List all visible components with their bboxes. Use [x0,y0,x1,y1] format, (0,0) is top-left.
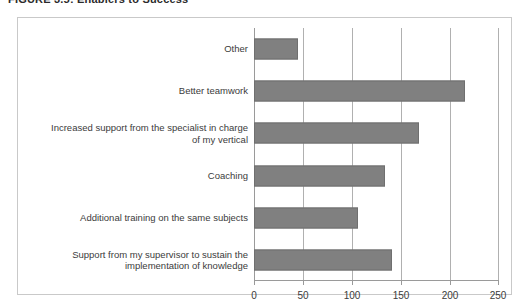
x-tick-label: 100 [344,290,361,301]
x-tick-label: 250 [490,290,507,301]
bar-additional-training[interactable] [254,207,358,228]
table-row: Better teamwork [254,70,499,112]
x-tick [401,281,402,285]
x-axis-line [254,280,499,281]
category-label: Coaching [16,170,248,182]
bar-other[interactable] [254,39,298,60]
x-tick [498,281,499,285]
category-label: Better teamwork [16,85,248,97]
bar-coaching[interactable] [254,165,385,186]
category-label: Other [16,43,248,55]
x-tick [303,281,304,285]
bar-increased-support[interactable] [254,123,419,144]
table-row: Additional training on the same subjects [254,197,499,239]
bar-supervisor-support[interactable] [254,249,392,270]
x-tick [450,281,451,285]
category-label: Support from my supervisor to sustain th… [16,248,248,271]
x-tick-label: 150 [393,290,410,301]
table-row: Coaching [254,155,499,197]
table-row: Increased support from the specialist in… [254,112,499,154]
plot-area: Other Better teamwork Increased support … [254,28,499,281]
table-row: Support from my supervisor to sustain th… [254,239,499,281]
bar-better-teamwork[interactable] [254,81,465,102]
x-tick-label: 0 [251,290,257,301]
x-tick [352,281,353,285]
category-label: Increased support from the specialist in… [16,122,248,145]
chart-frame: Other Better teamwork Increased support … [17,17,512,295]
category-label: Additional training on the same subjects [16,212,248,224]
figure-caption: FIGURE 3.5: Enablers to Success [8,0,188,5]
x-tick [254,281,255,285]
x-tick-label: 200 [442,290,459,301]
x-tick-label: 50 [297,290,308,301]
table-row: Other [254,28,499,70]
